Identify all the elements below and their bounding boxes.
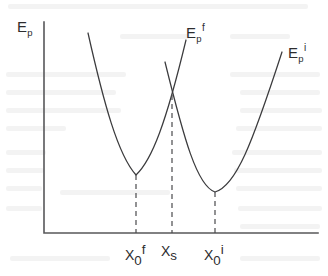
x-tick-label-xs-base: X [161, 243, 170, 259]
curve-ep-initial [165, 52, 282, 192]
curve-label-ep-final-sub: p [196, 33, 201, 44]
x-tick-label-x0i: X0i [204, 243, 224, 267]
curve-label-ep-initial-base: E [288, 44, 298, 61]
plot-canvas [0, 0, 328, 276]
curve-label-ep-initial-sup: i [304, 42, 306, 53]
curve-label-ep-final-sup: f [202, 22, 205, 33]
curve-label-ep-initial: Epi [288, 45, 306, 61]
x-tick-label-x0i-base: X [204, 247, 213, 263]
x-tick-label-x0i-sup: i [221, 242, 224, 257]
x-tick-label-x0f-base: X [125, 247, 134, 263]
curve-label-ep-final: Epf [186, 25, 204, 41]
potential-energy-figure: Ep Epf Epi X0f Xs X0i [0, 0, 328, 276]
curve-ep-final [88, 33, 186, 175]
y-axis-label: Ep [17, 19, 33, 35]
x-tick-label-xs: Xs [161, 243, 177, 263]
y-axis-label-base: E [17, 18, 27, 35]
x-tick-label-x0f-sub: 0 [134, 253, 141, 268]
curve-label-ep-initial-sub: p [298, 53, 303, 64]
x-tick-label-x0f: X0f [125, 243, 145, 267]
curve-label-ep-final-base: E [186, 24, 196, 41]
y-axis-label-sub: p [27, 27, 32, 38]
x-tick-label-x0f-sup: f [142, 242, 146, 257]
x-tick-label-xs-sub: s [170, 248, 177, 263]
x-tick-label-x0i-sub: 0 [213, 253, 220, 268]
axis-lines [44, 22, 318, 233]
